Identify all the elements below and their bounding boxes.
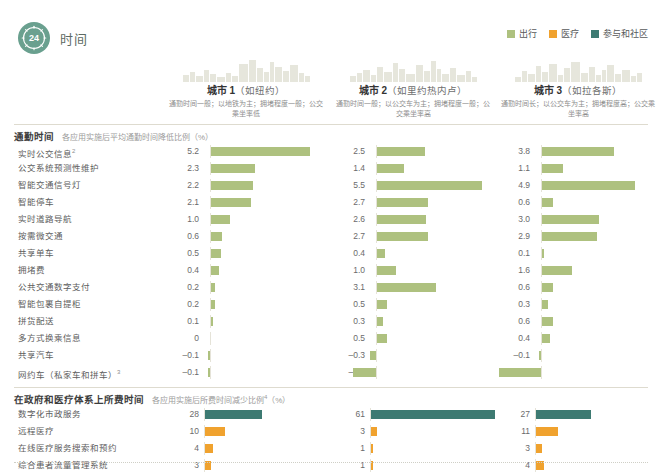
section-header-commute: 通勤时间 各应用实施后平均通勤时间降低比例（%） [0,124,662,143]
bar [377,232,428,241]
section-subtitle-gov-health: 各应用实施后所费时间减少比例4（%） [152,394,290,405]
column-title-city-2: 城市 2（如里约热内卢） [327,85,499,97]
chart-rows-gov-health: 数字化市政服务286127远程医疗10311在线医疗服务搜索和预约413综合患者… [0,406,662,474]
header: 24 时间 出行 医疗 参与和社区 [0,0,662,58]
footer-divider [14,462,648,463]
row-label: 网约车（私家车和拼车）3 [18,364,120,384]
bar [211,198,251,207]
bar-value-label: 1.1 [496,160,530,177]
bar-value-label: 0.5 [165,245,199,262]
chart-row: 拼货配送0.10.30.6 [0,313,662,330]
chart-row: 在线医疗服务搜索和预约413 [0,440,662,457]
row-label: 远程医疗 [18,423,54,440]
bar [542,215,599,224]
legend: 出行 医疗 参与和社区 [507,27,648,40]
bar-value-label: –0.1 [165,347,199,364]
bar [211,232,222,241]
bar-value-label: 3.1 [331,279,365,296]
column-header-city-1: 城市 1（如纽约） 通勤时间一般；以地铁为主；拥堵程度一般；公交乘坐率低 [160,58,332,118]
chart-row: 共享单车0.50.40.1 [0,245,662,262]
bar-value-label: 0.1 [165,313,199,330]
column-paren-city-2: （如里约热内卢） [387,85,467,96]
bar [205,410,262,419]
row-label: 多方式换乘信息 [18,330,81,347]
bar [377,300,387,309]
zero-baseline [541,366,542,379]
zero-baseline [210,366,211,379]
bar [542,147,614,156]
column-paren-city-3: （如拉各斯） [562,85,622,96]
bar-value-label: 2.7 [331,194,365,211]
bar [371,444,373,453]
bar [377,249,385,258]
bar [211,181,253,190]
bar [211,317,213,326]
page-title: 时间 [60,29,88,48]
bar-value-label: 0.3 [496,296,530,313]
column-desc-city-1: 通勤时间一般；以地铁为主；拥堵程度一般；公交乘坐率低 [160,99,332,118]
bar-value-label: 1.0 [165,211,199,228]
chart-row: 智能交通信号灯2.25.54.9 [0,177,662,194]
bar-value-label: 0.6 [496,313,530,330]
row-label-footnote: 2 [72,148,75,154]
section-title-gov-health: 在政府和医疗体系上所费时间 [14,392,144,406]
zero-baseline [210,332,211,345]
bar [499,368,541,377]
bar-value-label: 0.4 [331,245,365,262]
bar [539,351,541,360]
bar-value-label: 3 [496,440,530,457]
chart-row: 按需微交通0.62.72.9 [0,228,662,245]
row-label: 智能交通信号灯 [18,177,81,194]
zero-baseline [376,349,377,362]
bar [536,427,558,436]
chart-row: 网约车（私家车和拼车）3–0.1–1.2–2.2 [0,364,662,381]
bar-value-label: 4.9 [496,177,530,194]
bar [377,147,425,156]
row-label: 智能包裹自提柜 [18,296,81,313]
bar [371,410,495,419]
zero-baseline [210,349,211,362]
legend-label-health: 医疗 [561,27,579,40]
bar [211,147,310,156]
section-title-commute: 通勤时间 [14,129,54,143]
chart-row: 公交系统预测性维护2.31.41.1 [0,160,662,177]
row-label: 实时道路导航 [18,211,72,228]
bar-value-label: 4 [165,440,199,457]
bar-value-label: 0.1 [496,245,530,262]
bar [371,427,377,436]
bar-value-label: 2.9 [496,228,530,245]
bar-value-label: 28 [165,406,199,423]
bar [377,283,436,292]
bar [208,368,210,377]
row-label: 数字化市政服务 [18,406,81,423]
bar [377,198,428,207]
skyline-icon-3 [513,58,643,82]
legend-swatch-mobility [507,30,515,38]
chart-row: 多方式换乘信息00.50.4 [0,330,662,347]
chart-row: 数字化市政服务286127 [0,406,662,423]
bar-value-label: 0.5 [331,330,365,347]
row-label: 共享汽车 [18,347,54,364]
bar [353,368,376,377]
section-rule-1 [14,124,648,125]
legend-label-mobility: 出行 [519,27,537,40]
bar-value-label: 1 [331,440,365,457]
chart-row: 综合患者流量管理系统314 [0,457,662,474]
bar [211,300,215,309]
bar-value-label: 0.6 [496,279,530,296]
row-label: 公共交通数字支付 [18,279,90,296]
row-label: 拥堵费 [18,262,45,279]
bar [542,334,550,343]
skyline-icon-1 [181,58,311,82]
legend-label-engagement: 参与和社区 [603,27,648,40]
bar-value-label: 1.0 [331,262,365,279]
bar-value-label: 5.5 [331,177,365,194]
bar [211,215,230,224]
zero-baseline [376,366,377,379]
bar-value-label: 0.4 [496,330,530,347]
bar-value-label: 3.8 [496,143,530,160]
bar-value-label: 3 [165,457,199,474]
bar-value-label: 2.7 [331,228,365,245]
chart-rows-commute: 实时公交信息25.22.53.8公交系统预测性维护2.31.41.1智能交通信号… [0,143,662,381]
bar [542,164,563,173]
